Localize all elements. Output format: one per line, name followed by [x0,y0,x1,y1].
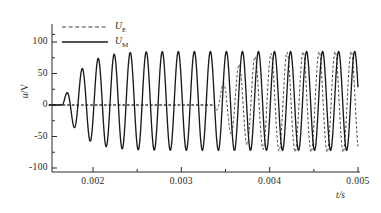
x-tick-label: 0.002 [69,176,117,186]
legend-entry-um: UM [115,36,128,49]
y-tick-label: 0 [0,99,48,109]
y-axis-ticks [52,34,57,168]
series-layer [49,51,358,152]
y-tick-label: 50 [0,68,48,78]
y-axis-title-unit: V [20,84,30,91]
legend-entry-ue: UE [115,21,126,34]
y-tick-label: -100 [0,162,48,172]
y-tick-label: 100 [0,36,48,46]
series-line-u-m [49,51,358,150]
x-axis-title: t/s [336,190,345,200]
x-axis-ticks [93,167,358,172]
x-tick-label: 0.003 [157,176,205,186]
y-axis-title: u/V [14,84,32,98]
y-axis-title-variable: u [20,93,30,98]
series-line-u-e [49,51,358,152]
x-tick-label: 0.005 [334,176,381,186]
chart-figure: 100500-50-1000.0020.0030.0040.005 u/V t/… [0,0,381,213]
y-tick-label: -50 [0,131,48,141]
legend-sample-lines [62,27,108,42]
x-tick-label: 0.004 [246,176,294,186]
